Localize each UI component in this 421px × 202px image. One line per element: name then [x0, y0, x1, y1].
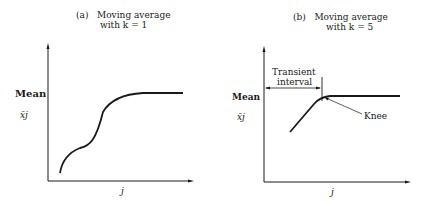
panel-b-y-arrow-icon	[263, 46, 266, 52]
panel-a-x-arrow-icon	[188, 180, 194, 183]
panel-a-curve	[60, 93, 183, 173]
panel-b-x-arrow-icon	[405, 181, 411, 184]
knee-pointer-line	[326, 98, 362, 114]
knee-arrowhead-icon	[324, 97, 329, 101]
diagram-canvas	[0, 0, 421, 202]
transient-left-arrowhead-icon	[265, 87, 270, 90]
panel-a-y-arrow-icon	[47, 43, 50, 49]
panel-a-axes	[47, 43, 195, 183]
panel-b-axes	[263, 46, 412, 184]
panel-b-curve	[290, 96, 400, 132]
transient-right-arrowhead-icon	[316, 87, 321, 90]
